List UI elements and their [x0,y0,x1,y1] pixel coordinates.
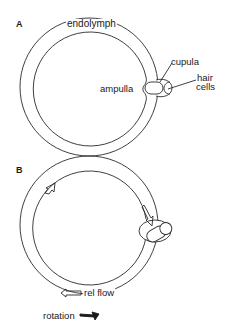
canal-a [20,18,158,156]
semicircular-canal-diagram [0,0,229,334]
endolymph-label: endolymph [66,19,117,29]
ampulla-label: ampulla [100,84,133,94]
cupula-label: cupula [171,57,199,67]
rotation-arrow [80,312,99,320]
hair-cells-label-line2: cells [196,82,215,92]
canal-b-outer-wall [20,156,158,294]
ampulla-b [139,220,174,244]
rel-flow-label: rel flow [83,288,115,298]
panel-label-b: B [16,165,23,175]
canal-b [20,156,158,294]
hair-cells-leader-line [168,80,196,89]
panel-label-a: A [16,19,23,29]
canal-a-outer-wall [20,18,158,156]
flow-arrow-top-left [45,183,55,194]
rotation-label: rotation [43,311,75,321]
canal-b-inner-wall [33,171,146,285]
